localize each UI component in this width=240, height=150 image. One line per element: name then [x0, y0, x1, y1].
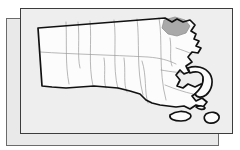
- map-svg: [20, 8, 233, 134]
- marthas-vineyard-island: [170, 111, 191, 121]
- massachusetts-map: [20, 8, 233, 134]
- nantucket-island: [204, 112, 219, 123]
- coastal-islet: [196, 106, 205, 109]
- figure-canvas: Essex County: [0, 0, 240, 150]
